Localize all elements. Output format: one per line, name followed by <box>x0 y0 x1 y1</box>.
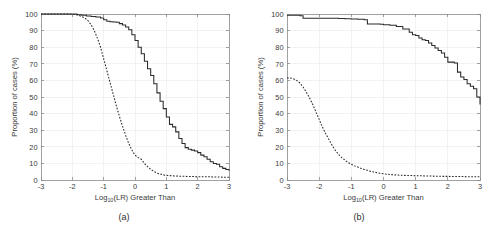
x-axis-label-b-rest: (LR) Greater Than <box>362 193 424 202</box>
y-tick-labels-a: 0102030405060708090100 <box>25 10 37 185</box>
panel-caption-b: (b) <box>354 212 365 222</box>
x-tick-label: -2 <box>316 182 323 191</box>
y-tick-label: 70 <box>29 60 37 69</box>
x-tick-label: -1 <box>100 182 107 191</box>
plot-svg-b: 0102030405060708090100 -3-2-10123 Propor… <box>249 0 498 229</box>
y-tick-label: 60 <box>275 76 283 85</box>
y-tick-label: 100 <box>25 10 37 19</box>
chart-panel-a: 0102030405060708090100 -3-2-10123 Propor… <box>0 0 249 229</box>
grid-lines-b <box>287 14 480 180</box>
x-tick-label: -3 <box>284 182 291 191</box>
y-tick-labels-b: 0102030405060708090100 <box>271 10 283 185</box>
figure-container: 0102030405060708090100 -3-2-10123 Propor… <box>0 0 498 229</box>
y-tick-label: 90 <box>275 26 283 35</box>
x-tick-label: 2 <box>196 182 200 191</box>
x-tick-label: 3 <box>478 182 482 191</box>
y-tick-label: 100 <box>271 10 283 19</box>
y-tick-label: 20 <box>275 143 283 152</box>
y-tick-label: 40 <box>275 109 283 118</box>
chart-panel-b: 0102030405060708090100 -3-2-10123 Propor… <box>249 0 498 229</box>
y-tick-label: 90 <box>29 26 37 35</box>
x-tick-label: 3 <box>227 182 231 191</box>
x-tick-label: 1 <box>164 182 168 191</box>
plot-svg-a: 0102030405060708090100 -3-2-10123 Propor… <box>0 0 249 229</box>
y-axis-label-b: Proportion of cases (%) <box>256 57 265 137</box>
y-tick-label: 50 <box>29 93 37 102</box>
y-tick-label: 80 <box>29 43 37 52</box>
x-tick-label: 0 <box>381 182 385 191</box>
x-axis-label-b: Log10(LR) Greater Than <box>343 193 424 203</box>
x-tick-labels-b: -3-2-10123 <box>284 182 482 191</box>
x-tick-label: 0 <box>133 182 137 191</box>
y-tick-label: 50 <box>275 93 283 102</box>
x-tick-label: -2 <box>69 182 76 191</box>
y-tick-label: 70 <box>275 60 283 69</box>
y-tick-label: 10 <box>275 159 283 168</box>
x-axis-label-a-base: Log <box>95 193 108 202</box>
x-tick-label: 2 <box>446 182 450 191</box>
y-axis-label-a: Proportion of cases (%) <box>10 57 19 137</box>
x-axis-label-b-base: Log <box>343 193 356 202</box>
y-tick-label: 60 <box>29 76 37 85</box>
x-tick-label: -1 <box>348 182 355 191</box>
x-tick-label: -3 <box>38 182 45 191</box>
y-tick-label: 40 <box>29 109 37 118</box>
y-tick-label: 30 <box>275 126 283 135</box>
y-tick-label: 30 <box>29 126 37 135</box>
y-tick-label: 20 <box>29 143 37 152</box>
y-tick-label: 10 <box>29 159 37 168</box>
x-axis-label-a: Log10(LR) Greater Than <box>95 193 176 203</box>
x-tick-label: 1 <box>414 182 418 191</box>
x-axis-label-a-rest: (LR) Greater Than <box>113 193 175 202</box>
x-tick-labels-a: -3-2-10123 <box>38 182 231 191</box>
y-tick-label: 80 <box>275 43 283 52</box>
panel-caption-a: (a) <box>119 212 130 222</box>
